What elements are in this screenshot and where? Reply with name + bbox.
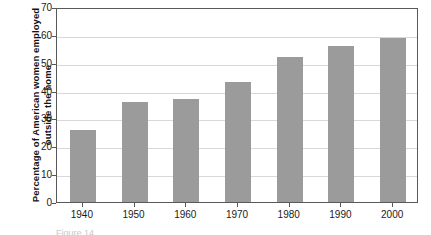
x-tick-mark [237, 203, 238, 207]
x-tick-mark [289, 203, 290, 207]
y-tick-label: 20 [41, 142, 52, 152]
x-tick-label: 1950 [122, 209, 144, 220]
x-tick-label: 1980 [278, 209, 300, 220]
bar-chart-figure: Percentage of American women employed ou… [0, 0, 431, 235]
bar [122, 102, 148, 202]
bars-group [57, 9, 417, 202]
x-tick-mark [185, 203, 186, 207]
y-tick-label: 50 [41, 59, 52, 69]
bar [328, 46, 354, 202]
figure-caption-cropped: Figure 14 [56, 228, 416, 235]
x-tick-mark [340, 203, 341, 207]
y-tick-label: 30 [41, 114, 52, 124]
x-tick-mark [392, 203, 393, 207]
x-tick-label: 1970 [226, 209, 248, 220]
bar [380, 38, 406, 202]
x-axis-tick-labels: 1940195019601970198019902000 [56, 203, 418, 223]
y-axis-tick-labels: 010203040506070 [32, 0, 56, 212]
x-tick-label: 1990 [329, 209, 351, 220]
y-tick-label: 10 [41, 170, 52, 180]
bar [277, 57, 303, 202]
x-tick-label: 1960 [174, 209, 196, 220]
plot-area [56, 8, 418, 203]
y-tick-label: 70 [41, 3, 52, 13]
x-tick-mark [134, 203, 135, 207]
x-tick-label: 1940 [71, 209, 93, 220]
bar [173, 99, 199, 202]
bar [70, 130, 96, 202]
y-tick-label: 40 [41, 87, 52, 97]
x-tick-label: 2000 [381, 209, 403, 220]
bar [225, 82, 251, 202]
x-tick-mark [82, 203, 83, 207]
y-tick-label: 60 [41, 31, 52, 41]
y-axis-title-container: Percentage of American women employed ou… [0, 0, 34, 212]
